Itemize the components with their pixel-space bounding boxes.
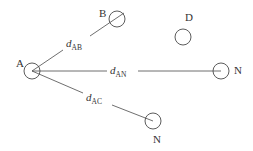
- edge-a-b-segment: [32, 50, 63, 71]
- node-b-label: B: [99, 7, 106, 19]
- node-d-circle: [175, 29, 191, 45]
- edge-label-dan: dAN: [110, 64, 127, 79]
- node-a-label: A: [16, 57, 24, 69]
- node-n2-label: N: [153, 133, 161, 145]
- nodes: [24, 11, 229, 129]
- edge-label-dac: dAC: [86, 91, 102, 106]
- labels: dABdANdACABDNN: [16, 7, 242, 145]
- node-b-circle: [109, 11, 125, 27]
- edges: [32, 13, 221, 121]
- network-distance-diagram: dABdANdACABDNN: [0, 0, 253, 151]
- node-n1-label: N: [234, 64, 242, 76]
- edge-a-b-segment: [90, 13, 124, 36]
- node-d-label: D: [185, 11, 193, 23]
- edge-label-dab: dAB: [66, 37, 82, 52]
- edge-a-n2-segment: [112, 105, 153, 121]
